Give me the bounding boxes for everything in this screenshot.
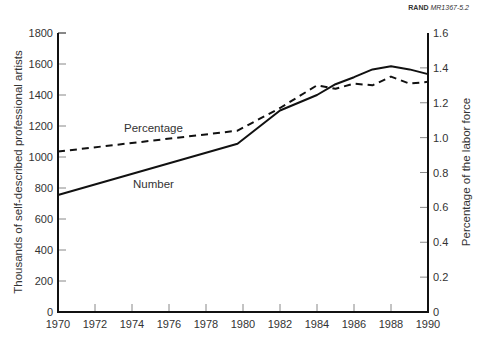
right-axis-ticks: 00.20.40.60.81.01.21.41.6 [420, 27, 448, 318]
x-tick-label: 1972 [83, 318, 107, 330]
series-label-percentage: Percentage [124, 122, 183, 134]
y-tick-label: 1200 [29, 120, 53, 132]
x-tick-label: 1984 [305, 318, 329, 330]
y2-tick-label: 1.0 [433, 132, 448, 144]
x-tick-label: 1978 [194, 318, 218, 330]
y2-tick-label: 0 [433, 306, 439, 318]
x-axis-ticks: 1970197219741976197819801982198419861988… [46, 304, 440, 330]
x-tick-label: 1976 [157, 318, 181, 330]
y-tick-label: 800 [35, 182, 53, 194]
y2-tick-label: 0.4 [433, 236, 448, 248]
right-axis-title: Percentage of the labor force [460, 98, 472, 246]
y-tick-label: 400 [35, 244, 53, 256]
y-tick-label: 0 [47, 306, 53, 318]
x-tick-label: 1982 [268, 318, 292, 330]
x-tick-label: 1990 [416, 318, 440, 330]
x-tick-label: 1970 [46, 318, 70, 330]
x-tick-label: 1986 [342, 318, 366, 330]
y-tick-label: 1600 [29, 58, 53, 70]
y-tick-label: 1000 [29, 151, 53, 163]
y2-tick-label: 1.4 [433, 62, 448, 74]
y-tick-label: 200 [35, 275, 53, 287]
y2-tick-label: 1.2 [433, 97, 448, 109]
left-axis-ticks: 020040060080010001200140016001800 [29, 27, 66, 318]
plot-frame [58, 33, 428, 312]
y-tick-label: 1400 [29, 89, 53, 101]
y2-tick-label: 0.6 [433, 201, 448, 213]
series-lines [58, 66, 428, 195]
y-tick-label: 600 [35, 213, 53, 225]
x-tick-label: 1980 [231, 318, 255, 330]
y2-tick-label: 0.2 [433, 271, 448, 283]
x-tick-label: 1974 [120, 318, 144, 330]
y2-tick-label: 1.6 [433, 27, 448, 39]
y-tick-label: 1800 [29, 27, 53, 39]
y2-tick-label: 0.8 [433, 167, 448, 179]
left-axis-title: Thousands of self-described professional… [12, 50, 24, 294]
line-chart: 020040060080010001200140016001800 00.20.… [0, 0, 479, 343]
x-tick-label: 1988 [379, 318, 403, 330]
series-label-number: Number [133, 178, 174, 190]
